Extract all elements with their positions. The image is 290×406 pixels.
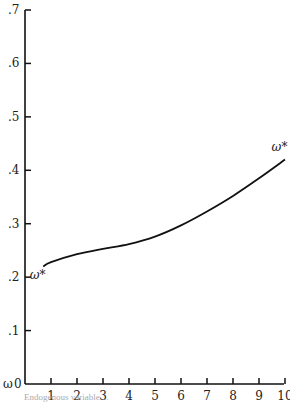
y-tick-label: .5 (8, 110, 19, 124)
y-tick-label: .7 (8, 3, 19, 17)
y-tick-label: .6 (8, 56, 19, 70)
y-tick-label: .1 (8, 324, 19, 338)
y-tick-label: .3 (8, 217, 19, 231)
chart: 0.1.2.3.4.5.6.7 12345678910 ω ω*ω* (0, 0, 290, 406)
omega-star-curve (43, 160, 285, 267)
omega-star-label: ω* (30, 268, 46, 282)
y-ticks: 0.1.2.3.4.5.6.7 (8, 3, 31, 391)
y-tick-label: .2 (8, 270, 19, 284)
x-tick-label: 8 (229, 389, 237, 403)
annotations: ω*ω* (30, 140, 288, 282)
x-tick-label: 9 (255, 389, 263, 403)
x-tick-label: 7 (203, 389, 211, 403)
y-tick-label: 0 (14, 377, 22, 391)
x-tick-label: 10 (277, 389, 290, 403)
omega-star-label: ω* (272, 140, 288, 154)
x-tick-label: 5 (151, 389, 159, 403)
y-axis-label: ω (3, 377, 13, 391)
x-tick-label: 4 (125, 389, 133, 403)
y-tick-label: .4 (8, 163, 20, 177)
footnote: Endogenous variable ... (24, 392, 109, 402)
x-tick-label: 6 (177, 389, 185, 403)
